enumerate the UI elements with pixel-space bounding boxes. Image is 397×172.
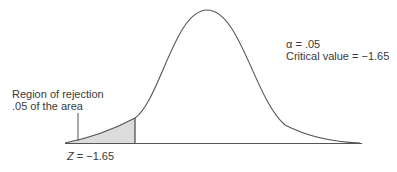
normal-curve: [65, 10, 360, 143]
z-symbol: Z: [67, 150, 74, 162]
normal-curve-figure: [0, 0, 397, 172]
critical-value-label: Critical value = −1.65: [286, 50, 389, 63]
rejection-area-label: .05 of the area: [12, 100, 83, 113]
z-critical-label: Z = −1.65: [67, 150, 114, 163]
rejection-region-shade: [65, 118, 135, 143]
z-value: = −1.65: [74, 150, 114, 162]
